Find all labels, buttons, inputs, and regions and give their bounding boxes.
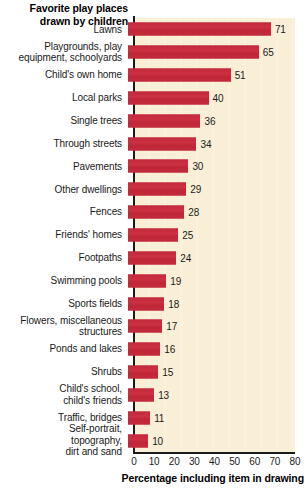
bar xyxy=(128,206,184,219)
bar-row: Flowers, miscellaneous structures17 xyxy=(0,315,308,338)
bar-row: Footpaths24 xyxy=(0,246,308,269)
bar-value-label: 51 xyxy=(235,70,246,81)
bar-category-label: Playgrounds, play equipment, schoolyards xyxy=(0,41,128,64)
bar-category-label: Through streets xyxy=(0,138,128,150)
bar-category-label: Sports fields xyxy=(0,298,128,310)
bar-value-label: 25 xyxy=(182,229,193,240)
x-axis-label: Percentage including item in drawing xyxy=(0,472,304,484)
x-tick-label: 30 xyxy=(189,456,200,467)
bar-value-label: 71 xyxy=(275,24,286,35)
bar-value-label: 24 xyxy=(180,252,191,263)
bar-track: 18 xyxy=(128,292,308,315)
bar xyxy=(128,228,178,241)
bar-row: Lawns71 xyxy=(0,18,308,41)
bar-track: 51 xyxy=(128,64,308,87)
bar-value-label: 11 xyxy=(154,412,164,423)
bar-value-label: 17 xyxy=(166,321,177,332)
bar-value-label: 28 xyxy=(188,207,199,218)
bar-category-label: Footpaths xyxy=(0,252,128,264)
bar xyxy=(128,251,176,264)
bar xyxy=(128,114,200,127)
bar xyxy=(128,366,158,379)
x-tick-label: 70 xyxy=(269,456,280,467)
bar-track: 16 xyxy=(128,338,308,361)
bar-row: Ponds and lakes16 xyxy=(0,338,308,361)
bar-row: Sports fields18 xyxy=(0,292,308,315)
bar-track: 65 xyxy=(128,41,308,64)
bar-track: 11 xyxy=(128,406,308,429)
bar xyxy=(128,343,160,356)
bar-row: Child's own home51 xyxy=(0,64,308,87)
bar-category-label: Fences xyxy=(0,206,128,218)
x-axis-line xyxy=(133,452,295,454)
bar xyxy=(128,388,154,401)
bar-value-label: 16 xyxy=(164,344,175,355)
bar-category-label: Pavements xyxy=(0,161,128,173)
bar xyxy=(128,91,209,104)
bar-track: 71 xyxy=(128,18,308,41)
bar-row: Self-portrait, topography, dirt and sand… xyxy=(0,429,308,452)
bar-track: 15 xyxy=(128,361,308,384)
bar xyxy=(128,46,259,59)
bar-track: 29 xyxy=(128,178,308,201)
bar-category-label: Traffic, bridges xyxy=(0,412,128,424)
bar-track: 25 xyxy=(128,224,308,247)
bar-row: Through streets34 xyxy=(0,132,308,155)
bar xyxy=(128,160,188,173)
bar-category-label: Local parks xyxy=(0,92,128,104)
bar-track: 19 xyxy=(128,269,308,292)
bar-track: 30 xyxy=(128,155,308,178)
x-tick-label: 0 xyxy=(131,456,136,467)
bar-track: 17 xyxy=(128,315,308,338)
bar-category-label: Single trees xyxy=(0,115,128,127)
bar-row: Pavements30 xyxy=(0,155,308,178)
bar-chart: Favorite play places drawn by children L… xyxy=(0,0,308,492)
bar-row: Swimming pools19 xyxy=(0,269,308,292)
bar-value-label: 29 xyxy=(190,184,201,195)
x-axis-ticks: 01020304050607080 xyxy=(0,456,308,470)
bar-value-label: 15 xyxy=(162,367,173,378)
bar-track: 13 xyxy=(128,383,308,406)
bar xyxy=(128,69,231,82)
bar-row: Friends' homes25 xyxy=(0,224,308,247)
bar xyxy=(128,23,271,36)
bar-track: 28 xyxy=(128,201,308,224)
bar-category-label: Child's school, child's friends xyxy=(0,383,128,406)
bar xyxy=(128,411,150,424)
bar-row: Other dwellings29 xyxy=(0,178,308,201)
bar-row: Local parks40 xyxy=(0,87,308,110)
bar xyxy=(128,274,166,287)
bar-value-label: 65 xyxy=(263,47,274,58)
x-tick-label: 80 xyxy=(290,456,301,467)
bar-category-label: Lawns xyxy=(0,24,128,36)
bar-row: Playgrounds, play equipment, schoolyards… xyxy=(0,41,308,64)
bar-track: 40 xyxy=(128,87,308,110)
x-tick-label: 10 xyxy=(149,456,160,467)
bar-track: 10 xyxy=(128,429,308,452)
bar-category-label: Ponds and lakes xyxy=(0,343,128,355)
bar-row: Fences28 xyxy=(0,201,308,224)
bar-track: 36 xyxy=(128,109,308,132)
bar-rows: Lawns71Playgrounds, play equipment, scho… xyxy=(0,18,308,452)
bar-row: Shrubs15 xyxy=(0,361,308,384)
bar-category-label: Shrubs xyxy=(0,366,128,378)
bar-category-label: Friends' homes xyxy=(0,229,128,241)
bar-category-label: Self-portrait, topography, dirt and sand xyxy=(0,423,128,458)
bar-value-label: 19 xyxy=(170,275,181,286)
bar-value-label: 36 xyxy=(204,115,215,126)
bar-value-label: 40 xyxy=(213,92,224,103)
bar xyxy=(128,434,148,447)
x-tick-label: 40 xyxy=(209,456,220,467)
bar-row: Child's school, child's friends13 xyxy=(0,383,308,406)
x-tick-label: 60 xyxy=(249,456,260,467)
bar xyxy=(128,297,164,310)
bar-category-label: Other dwellings xyxy=(0,184,128,196)
x-tick-label: 50 xyxy=(229,456,240,467)
bar xyxy=(128,320,162,333)
bar-value-label: 10 xyxy=(152,435,163,446)
bar-category-label: Flowers, miscellaneous structures xyxy=(0,315,128,338)
bar-row: Single trees36 xyxy=(0,109,308,132)
bar xyxy=(128,137,196,150)
bar-value-label: 30 xyxy=(192,161,203,172)
x-tick-label: 20 xyxy=(169,456,180,467)
